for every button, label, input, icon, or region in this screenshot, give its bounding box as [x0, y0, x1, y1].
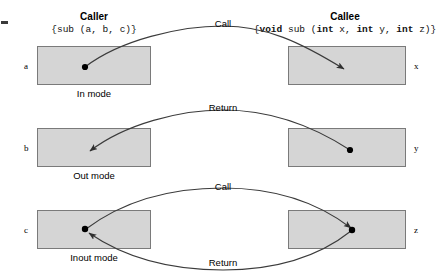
mode-label-out: Out mode — [38, 171, 150, 181]
caller-var-label-out-mode: b — [24, 144, 29, 153]
caller-dot-inout-mode — [82, 226, 88, 232]
edge-label-call-in-mode: Call — [193, 19, 253, 29]
mode-label-in: In mode — [38, 89, 150, 99]
callee-var-label-in-mode: x — [414, 62, 419, 71]
caller-var-label-inout-mode: c — [24, 226, 28, 235]
mode-label-inout: Inout mode — [38, 253, 150, 263]
parameter-passing-modes-diagram: Caller {sub (a, b, c)} Callee {void sub … — [0, 0, 447, 279]
callee-dot-inout-mode — [349, 227, 355, 233]
callee-box-inout-mode — [289, 211, 406, 249]
caller-var-label-in-mode: a — [24, 62, 28, 71]
callee-dot-out-mode — [347, 147, 353, 153]
callee-var-label-out-mode: y — [414, 144, 419, 153]
callee-var-label-inout-mode: z — [414, 226, 418, 235]
diagram-canvas — [0, 0, 447, 279]
edge-label-return-out-mode: Return — [193, 103, 253, 113]
edge-label-return-inout-mode: Return — [193, 258, 253, 268]
caller-dot-in-mode — [82, 64, 88, 70]
edge-label-call-inout-mode: Call — [193, 182, 253, 192]
caller-box-in-mode — [38, 47, 151, 85]
caller-box-inout-mode — [38, 211, 151, 249]
callee-box-in-mode — [289, 47, 406, 85]
